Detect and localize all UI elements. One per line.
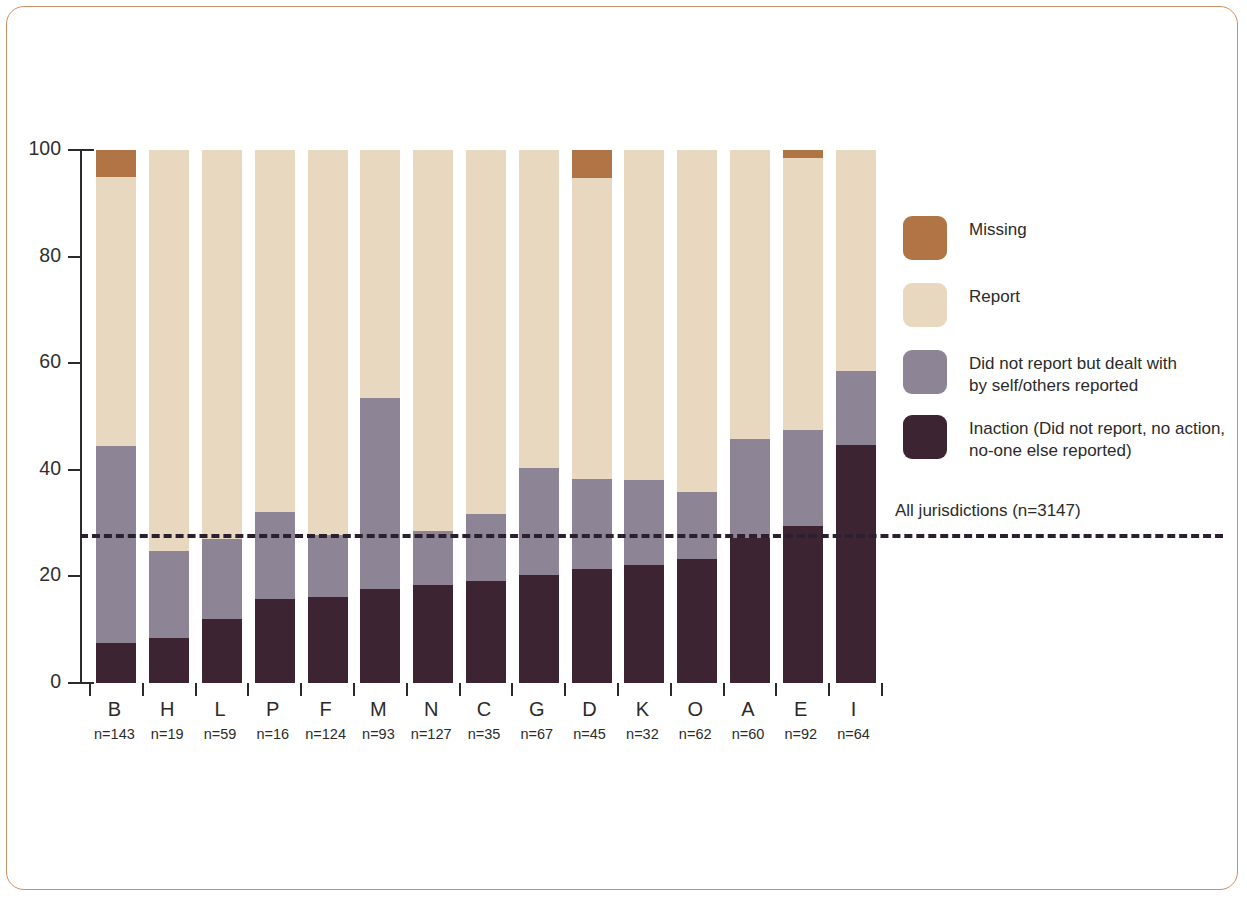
y-axis-line xyxy=(80,150,82,683)
bar-segment-inaction xyxy=(202,619,242,683)
x-axis-label: H xyxy=(141,698,194,721)
legend-swatch-report xyxy=(903,283,947,327)
bar-segment-dealt xyxy=(413,531,453,585)
x-axis-tick xyxy=(564,683,566,696)
legend-item: Did not report but dealt with by self/ot… xyxy=(903,350,1225,397)
y-axis-tick-label: 40 xyxy=(3,457,61,480)
bar-F xyxy=(308,150,348,683)
y-axis-tick xyxy=(68,682,81,684)
y-axis-tick-label: 0 xyxy=(3,670,61,693)
x-axis-tick xyxy=(775,683,777,696)
bar-M xyxy=(360,150,400,683)
x-axis-tick xyxy=(881,683,883,696)
bar-segment-report xyxy=(255,150,295,512)
bar-I xyxy=(836,150,876,683)
y-axis-tick-label: 100 xyxy=(3,137,61,160)
bar-segment-dealt xyxy=(308,535,348,597)
bar-E xyxy=(783,150,823,683)
bar-segment-dealt xyxy=(836,371,876,445)
legend-swatch-dealt xyxy=(903,350,947,394)
x-axis-label: K xyxy=(616,698,669,721)
y-axis-bottom-cap xyxy=(80,682,94,684)
bar-segment-inaction xyxy=(783,526,823,683)
x-axis-label: F xyxy=(299,698,352,721)
x-axis-label: M xyxy=(352,698,405,721)
x-axis-label: I xyxy=(827,698,880,721)
bar-segment-inaction xyxy=(308,597,348,683)
x-axis-label: A xyxy=(722,698,775,721)
bar-segment-dealt xyxy=(466,514,506,581)
bar-segment-missing xyxy=(96,150,136,177)
x-axis-label: L xyxy=(194,698,247,721)
y-axis-tick xyxy=(68,469,81,471)
y-axis-tick-label: 80 xyxy=(3,244,61,267)
bar-O xyxy=(677,150,717,683)
x-axis-tick xyxy=(670,683,672,696)
x-axis-count-label: n=64 xyxy=(821,726,886,742)
y-axis-tick xyxy=(68,362,81,364)
y-axis-tick xyxy=(68,575,81,577)
bar-segment-dealt xyxy=(730,439,770,538)
bar-H xyxy=(149,150,189,683)
x-axis-label: C xyxy=(458,698,511,721)
legend-label: Inaction (Did not report, no action, no-… xyxy=(969,415,1225,462)
bar-P xyxy=(255,150,295,683)
bar-segment-report xyxy=(677,150,717,492)
bar-segment-dealt xyxy=(255,512,295,598)
bar-segment-report xyxy=(308,150,348,535)
legend-label: Missing xyxy=(969,216,1027,241)
y-axis-tick xyxy=(68,149,81,151)
bar-D xyxy=(572,150,612,683)
bar-segment-inaction xyxy=(360,589,400,683)
x-axis-label: D xyxy=(563,698,616,721)
x-axis-tick xyxy=(89,683,91,696)
x-axis-label: N xyxy=(405,698,458,721)
bar-segment-missing xyxy=(783,150,823,158)
bar-segment-inaction xyxy=(730,538,770,683)
reference-line-label: All jurisdictions (n=3147) xyxy=(895,501,1081,521)
bar-segment-report xyxy=(149,150,189,551)
x-axis-label: G xyxy=(510,698,563,721)
bar-segment-report xyxy=(360,150,400,398)
bar-segment-report xyxy=(730,150,770,439)
x-axis-tick xyxy=(511,683,513,696)
y-axis-tick-label: 60 xyxy=(3,350,61,373)
bar-segment-dealt xyxy=(519,468,559,575)
x-axis-tick xyxy=(617,683,619,696)
x-axis-tick xyxy=(459,683,461,696)
reference-line xyxy=(80,534,1223,538)
legend-swatch-missing xyxy=(903,216,947,260)
x-axis-label: O xyxy=(669,698,722,721)
x-axis-tick xyxy=(300,683,302,696)
bar-segment-missing xyxy=(572,150,612,178)
bar-segment-dealt xyxy=(783,430,823,526)
bar-B xyxy=(96,150,136,683)
legend-swatch-inaction xyxy=(903,415,947,459)
bar-segment-dealt xyxy=(572,479,612,569)
bar-segment-dealt xyxy=(96,446,136,643)
x-axis-tick xyxy=(406,683,408,696)
bar-segment-inaction xyxy=(519,575,559,683)
legend-label: Did not report but dealt with by self/ot… xyxy=(969,350,1177,397)
bar-segment-inaction xyxy=(149,638,189,683)
legend-item: Inaction (Did not report, no action, no-… xyxy=(903,415,1225,462)
legend-item: Report xyxy=(903,283,1225,327)
bar-segment-report xyxy=(202,150,242,539)
bar-segment-dealt xyxy=(202,539,242,619)
bar-segment-report xyxy=(624,150,664,480)
bar-segment-dealt xyxy=(624,480,664,564)
bar-N xyxy=(413,150,453,683)
x-axis-tick xyxy=(195,683,197,696)
bar-segment-inaction xyxy=(624,565,664,683)
bar-segment-report xyxy=(836,150,876,371)
chart-plot-area: 020406080100 Bn=143Hn=19Ln=59Pn=16Fn=124… xyxy=(88,150,880,683)
bar-segment-report xyxy=(96,177,136,446)
bar-A xyxy=(730,150,770,683)
bar-K xyxy=(624,150,664,683)
y-axis-tick xyxy=(68,256,81,258)
bar-segment-inaction xyxy=(836,445,876,683)
x-axis-tick xyxy=(142,683,144,696)
bar-segment-report xyxy=(466,150,506,514)
bar-segment-inaction xyxy=(677,559,717,683)
x-axis-label: P xyxy=(246,698,299,721)
